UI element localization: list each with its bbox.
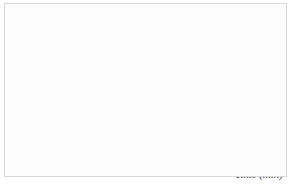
chart-figure: 300350400450500 10−210−1100101102 T(°C) …	[0, 0, 294, 184]
figure-border	[4, 3, 287, 177]
